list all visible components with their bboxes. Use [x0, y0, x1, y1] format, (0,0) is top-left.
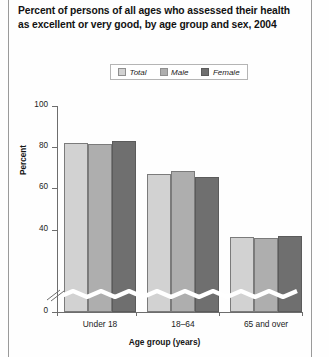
legend-item-male: Male [160, 68, 189, 77]
y-tick-label-80: 80 [39, 141, 48, 150]
legend-item-total: Total [118, 68, 147, 77]
y-tick-label-60: 60 [39, 182, 48, 191]
y-tick-label-100: 100 [34, 100, 48, 109]
legend-swatch-female [201, 68, 209, 76]
plot-area: 0406080100 [57, 106, 302, 313]
bar-female-group-0 [112, 141, 136, 312]
x-category-label-0: Under 18 [83, 319, 117, 329]
bar-total-group-1 [147, 174, 171, 312]
bar-total-group-2 [230, 237, 254, 312]
bar-total-group-0 [64, 143, 88, 312]
chart-legend: Total Male Female [110, 64, 248, 80]
y-tick-label-40: 40 [39, 224, 48, 233]
bar-male-group-2 [254, 238, 278, 312]
y-tick-80: 80 [52, 147, 57, 148]
legend-item-female: Female [201, 68, 239, 77]
page-border-left [8, 0, 9, 357]
bar-male-group-0 [88, 144, 112, 312]
x-category-label-2: 65 and over [244, 319, 288, 329]
bar-female-group-1 [195, 177, 219, 312]
y-tick-100: 100 [52, 106, 57, 107]
page-border-right [311, 0, 312, 357]
legend-label-total: Total [130, 68, 147, 77]
x-axis-line [57, 312, 302, 313]
x-axis-title: Age group (years) [0, 337, 329, 347]
x-tick-2 [219, 312, 220, 316]
y-tick-40: 40 [52, 230, 57, 231]
x-tick-1 [136, 312, 137, 316]
y-axis-line [57, 106, 58, 313]
legend-swatch-male [160, 68, 168, 76]
y-axis-title: Percent [19, 145, 28, 175]
bar-male-group-1 [171, 171, 195, 312]
x-category-label-1: 18–64 [171, 319, 194, 329]
legend-swatch-total [118, 68, 126, 76]
chart-page: Percent of persons of all ages who asses… [0, 0, 329, 357]
y-tick-60: 60 [52, 188, 57, 189]
x-tick-3 [302, 312, 303, 316]
x-tick-0 [57, 312, 58, 316]
legend-label-male: Male [171, 68, 188, 77]
y-tick-label-0: 0 [43, 306, 48, 315]
bar-female-group-2 [278, 236, 302, 312]
page-title: Percent of persons of all ages who asses… [18, 4, 303, 31]
legend-label-female: Female [213, 68, 240, 77]
